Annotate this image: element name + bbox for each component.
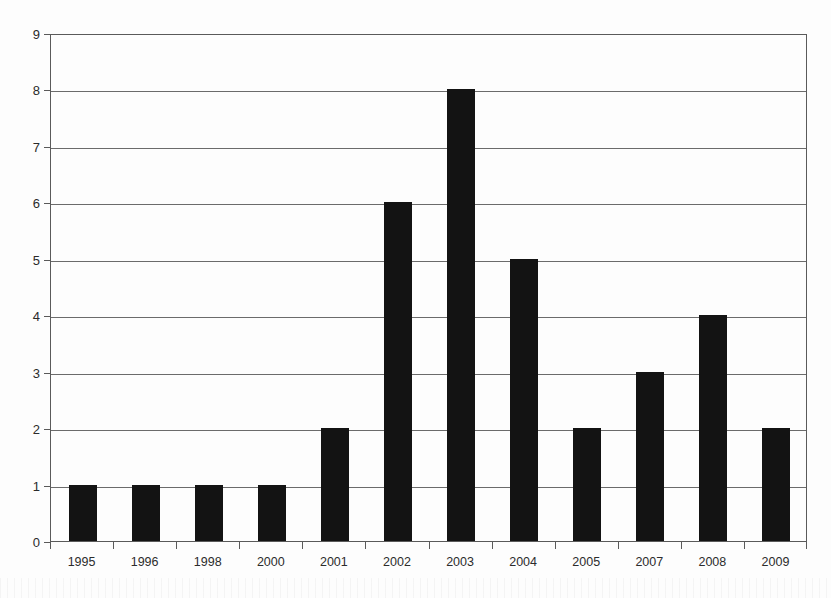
x-axis-tick-mark bbox=[302, 542, 303, 549]
bar[interactable] bbox=[573, 428, 601, 541]
bar[interactable] bbox=[258, 485, 286, 541]
x-axis-tick-mark bbox=[492, 542, 493, 549]
x-axis-tick-mark bbox=[113, 542, 114, 549]
bar[interactable] bbox=[510, 259, 538, 541]
x-axis-tick-label: 2000 bbox=[257, 556, 285, 569]
bar[interactable] bbox=[762, 428, 790, 541]
y-axis-tick-label: 8 bbox=[33, 84, 40, 97]
x-axis-tick-mark bbox=[365, 542, 366, 549]
y-axis-tick-mark bbox=[44, 486, 50, 487]
x-axis-tick-label: 2009 bbox=[762, 556, 790, 569]
x-axis-labels: 1995199619982000200120022003200420052007… bbox=[50, 556, 807, 576]
x-axis-tick-mark bbox=[806, 542, 807, 549]
y-axis-tick-mark bbox=[44, 203, 50, 204]
x-axis-ticks bbox=[50, 542, 807, 550]
bar-slot bbox=[114, 35, 177, 541]
x-axis-tick-label: 1998 bbox=[194, 556, 222, 569]
bar-slot bbox=[430, 35, 493, 541]
bar-slot bbox=[619, 35, 682, 541]
y-axis-tick-mark bbox=[44, 316, 50, 317]
bar[interactable] bbox=[384, 202, 412, 541]
y-axis-tick-label: 1 bbox=[33, 479, 40, 492]
x-axis-tick-mark bbox=[429, 542, 430, 549]
bar[interactable] bbox=[195, 485, 223, 541]
x-axis-tick-label: 2008 bbox=[698, 556, 726, 569]
bar[interactable] bbox=[699, 315, 727, 541]
y-axis-tick-mark bbox=[44, 147, 50, 148]
bar-slot bbox=[366, 35, 429, 541]
x-axis-tick-mark bbox=[618, 542, 619, 549]
bar-slot bbox=[745, 35, 808, 541]
y-axis-tick-label: 3 bbox=[33, 366, 40, 379]
bar[interactable] bbox=[69, 485, 97, 541]
bar-slot bbox=[240, 35, 303, 541]
y-axis-tick-label: 4 bbox=[33, 310, 40, 323]
bar-slot bbox=[51, 35, 114, 541]
bar[interactable] bbox=[321, 428, 349, 541]
bar[interactable] bbox=[636, 372, 664, 541]
y-axis-tick-label: 6 bbox=[33, 197, 40, 210]
bar-slot bbox=[303, 35, 366, 541]
y-axis-tick-label: 0 bbox=[33, 536, 40, 549]
x-axis-tick-label: 2007 bbox=[635, 556, 663, 569]
bar-slot bbox=[493, 35, 556, 541]
x-axis-tick-mark bbox=[239, 542, 240, 549]
y-axis-tick-mark bbox=[44, 260, 50, 261]
x-axis-tick-mark bbox=[681, 542, 682, 549]
bar-slot bbox=[177, 35, 240, 541]
plot-area bbox=[50, 34, 807, 542]
x-axis-tick-label: 2002 bbox=[383, 556, 411, 569]
x-axis-tick-label: 1996 bbox=[131, 556, 159, 569]
bar[interactable] bbox=[132, 485, 160, 541]
y-axis-tick-label: 7 bbox=[33, 140, 40, 153]
bar-slot bbox=[682, 35, 745, 541]
x-axis-tick-mark bbox=[555, 542, 556, 549]
x-axis-tick-label: 2005 bbox=[572, 556, 600, 569]
y-axis-tick-label: 5 bbox=[33, 253, 40, 266]
bar[interactable] bbox=[447, 89, 475, 541]
scan-artifact-band bbox=[0, 578, 831, 598]
y-axis-tick-mark bbox=[44, 373, 50, 374]
x-axis-tick-mark bbox=[744, 542, 745, 549]
bar-chart-figure: 0123456789 19951996199820002001200220032… bbox=[0, 0, 831, 598]
bar-slot bbox=[556, 35, 619, 541]
y-axis-tick-mark bbox=[44, 90, 50, 91]
y-axis-tick-label: 2 bbox=[33, 423, 40, 436]
x-axis-tick-label: 1995 bbox=[68, 556, 96, 569]
x-axis-tick-label: 2004 bbox=[509, 556, 537, 569]
y-axis-tick-label: 9 bbox=[33, 28, 40, 41]
x-axis-tick-label: 2001 bbox=[320, 556, 348, 569]
x-axis-tick-mark bbox=[50, 542, 51, 549]
x-axis-tick-label: 2003 bbox=[446, 556, 474, 569]
y-axis-tick-mark bbox=[44, 429, 50, 430]
x-axis-tick-mark bbox=[176, 542, 177, 549]
y-axis-tick-mark bbox=[44, 34, 50, 35]
bars-group bbox=[51, 35, 806, 541]
